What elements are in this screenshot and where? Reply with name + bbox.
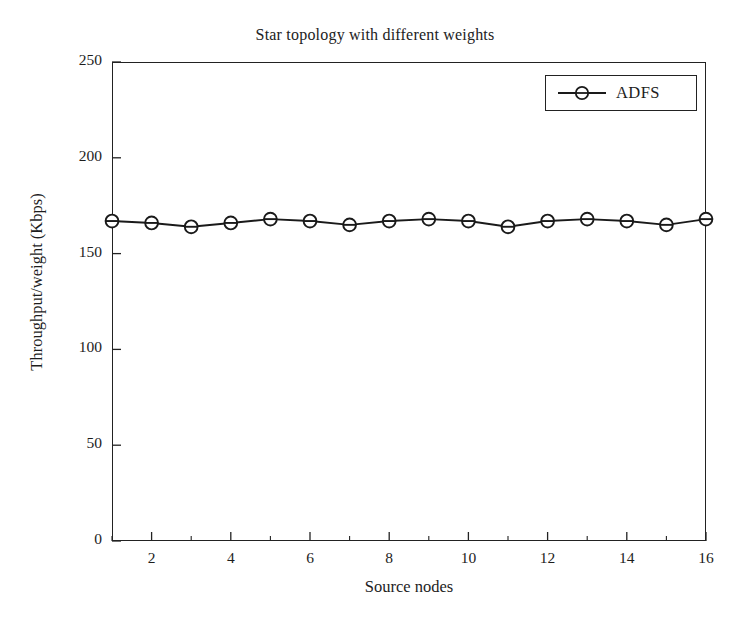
x-tick-label: 14	[607, 549, 647, 567]
x-axis-label: Source nodes	[112, 577, 706, 597]
x-tick-label: 12	[528, 549, 568, 567]
x-tick-label: 8	[369, 549, 409, 567]
legend-entry-label: ADFS	[616, 83, 660, 103]
x-tick-label: 4	[211, 549, 251, 567]
y-tick-label: 150	[42, 243, 102, 261]
x-tick-label: 16	[686, 549, 726, 567]
chart-page: Star topology with different weights Thr…	[0, 0, 750, 636]
x-tick-label: 2	[132, 549, 172, 567]
data-series-layer	[106, 213, 713, 233]
x-tick-label: 6	[290, 549, 330, 567]
y-tick-label: 50	[42, 434, 102, 452]
y-tick-label: 200	[42, 147, 102, 165]
y-axis-label: Throughput/weight (Kbps)	[27, 82, 47, 482]
legend-marker-icon	[556, 84, 608, 102]
chart-legend: ADFS	[545, 75, 697, 111]
y-tick-label: 250	[42, 51, 102, 69]
x-tick-label: 10	[448, 549, 488, 567]
y-tick-label: 100	[42, 338, 102, 356]
axis-ticks	[112, 62, 706, 541]
y-tick-label: 0	[42, 530, 102, 548]
